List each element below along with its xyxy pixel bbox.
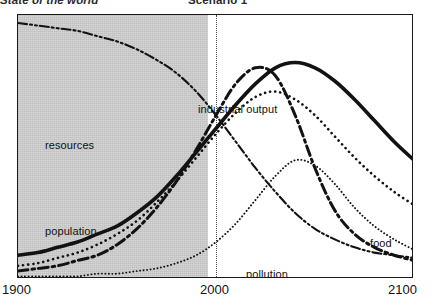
series-line-pollution [18, 160, 413, 277]
x-axis-tick-1900: 1900 [2, 282, 31, 297]
series-label-resources: resources [45, 139, 94, 151]
series-label-industrial-output: industrial output [198, 103, 277, 115]
series-label-food: food [370, 237, 392, 249]
figure-caption-left: State of the world [0, 0, 98, 6]
series-label-pollution: pollution [246, 268, 288, 278]
series-label-population: population [45, 225, 97, 237]
figure-root: State of the world Scenario 1 resources … [0, 0, 433, 305]
figure-caption-right: Scenario 1 [188, 0, 247, 6]
chart-plot-area: resources population industrial output f… [17, 14, 413, 278]
x-axis-tick-2000: 2000 [200, 282, 229, 297]
x-axis-tick-2100: 2100 [388, 282, 417, 297]
